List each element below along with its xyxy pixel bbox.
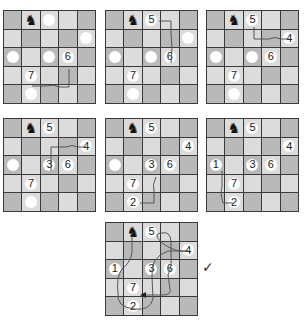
- grid-cell: 6: [59, 48, 76, 66]
- grid-cell: [41, 30, 58, 48]
- grid-cell: [262, 30, 279, 48]
- grid-cell: [78, 30, 95, 48]
- grid-cell: [106, 297, 123, 315]
- grid-cell: [281, 119, 298, 137]
- numbered-disc: 6: [265, 159, 277, 171]
- grid-cell: [4, 85, 21, 103]
- grid-cell: 6: [59, 156, 76, 174]
- grid-cell: [78, 85, 95, 103]
- numbered-disc: 6: [164, 263, 176, 275]
- numbered-disc: 6: [265, 51, 277, 63]
- grid-cell: [262, 138, 279, 156]
- grid-cell: 5: [244, 119, 261, 137]
- grid-cell: 5: [143, 223, 160, 241]
- board-step-3: ♞5467: [206, 10, 299, 104]
- grid-cell: [143, 67, 160, 85]
- grid-cell: [4, 119, 21, 137]
- grid-cell: [161, 242, 178, 260]
- grid-cell: [180, 297, 197, 315]
- grid-cell: 1: [207, 156, 224, 174]
- grid-cell: 3: [143, 260, 160, 278]
- grid-cell: [180, 11, 197, 29]
- grid-cell: 7: [225, 175, 242, 193]
- numbered-disc: 4: [182, 244, 194, 256]
- grid-cell: [106, 67, 123, 85]
- grid-cell: ♞: [22, 11, 39, 29]
- grid-cell: ♞: [225, 119, 242, 137]
- grid-cell: [244, 138, 261, 156]
- numbered-disc: 6: [62, 51, 74, 63]
- empty-disc: [145, 51, 157, 63]
- grid-cell: [106, 11, 123, 29]
- grid-cell: 3: [143, 156, 160, 174]
- grid-cell: [41, 85, 58, 103]
- grid-cell: [262, 85, 279, 103]
- grid-cell: [244, 175, 261, 193]
- grid-cell: [143, 85, 160, 103]
- grid-cell: [4, 175, 21, 193]
- grid-cell: 4: [281, 138, 298, 156]
- grid-cell: 4: [180, 138, 197, 156]
- numbered-disc: 7: [127, 282, 139, 294]
- grid-cell: 6: [161, 156, 178, 174]
- grid-cell: [143, 48, 160, 66]
- grid-cell: [124, 138, 141, 156]
- grid-cell: [225, 156, 242, 174]
- grid-cell: [4, 30, 21, 48]
- grid-cell: 7: [22, 175, 39, 193]
- numbered-disc: 7: [228, 70, 240, 82]
- grid-cell: 1: [106, 260, 123, 278]
- numbered-disc: 5: [145, 122, 157, 134]
- board-step-4: ♞54367: [3, 118, 96, 212]
- grid-cell: [161, 279, 178, 297]
- numbered-disc: 5: [43, 122, 55, 134]
- grid-cell: [207, 119, 224, 137]
- grid-cell: [161, 11, 178, 29]
- grid-cell: [124, 48, 141, 66]
- grid-cell: 2: [124, 297, 141, 315]
- grid-cell: [262, 193, 279, 211]
- grid-cell: [106, 156, 123, 174]
- grid-cell: 6: [161, 48, 178, 66]
- grid-cell: [4, 48, 21, 66]
- grid-cell: [207, 48, 224, 66]
- grid-cell: [4, 156, 21, 174]
- grid-cell: [22, 193, 39, 211]
- grid-cell: [143, 175, 160, 193]
- grid-cell: [161, 175, 178, 193]
- grid-cell: [106, 48, 123, 66]
- empty-disc: [7, 159, 19, 171]
- grid-cell: [244, 85, 261, 103]
- grid-cell: [161, 85, 178, 103]
- numbered-disc: 4: [283, 32, 295, 44]
- empty-disc: [246, 51, 258, 63]
- grid-cell: 5: [143, 119, 160, 137]
- empty-disc: [182, 32, 194, 44]
- grid-cell: [207, 67, 224, 85]
- numbered-disc: 7: [228, 178, 240, 190]
- grid-cell: 7: [124, 67, 141, 85]
- grid-cell: [244, 48, 261, 66]
- grid-cell: [22, 48, 39, 66]
- grid-cell: 7: [124, 175, 141, 193]
- grid-cell: [180, 223, 197, 241]
- numbered-disc: 5: [145, 14, 157, 26]
- grid-cell: [180, 175, 197, 193]
- empty-disc: [127, 88, 139, 100]
- grid-cell: 5: [143, 11, 160, 29]
- grid-cell: [143, 297, 160, 315]
- knight-icon: ♞: [228, 13, 241, 27]
- grid-cell: [59, 119, 76, 137]
- grid-cell: ♞: [22, 119, 39, 137]
- empty-disc: [109, 51, 121, 63]
- board-step-1: ♞67: [3, 10, 96, 104]
- grid-cell: [106, 119, 123, 137]
- numbered-disc: 2: [127, 196, 139, 208]
- grid-cell: [78, 156, 95, 174]
- numbered-disc: 3: [246, 159, 258, 171]
- grid-cell: [161, 193, 178, 211]
- grid-cell: [41, 48, 58, 66]
- grid-cell: [4, 193, 21, 211]
- grid-cell: [41, 67, 58, 85]
- grid-cell: 6: [161, 260, 178, 278]
